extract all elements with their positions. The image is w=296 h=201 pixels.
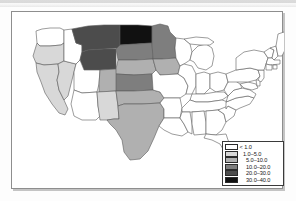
map-frame: < 1.0 1.0–5.0 5.0–10.0 10.0–20.0 20.0–30…: [11, 11, 283, 189]
state-alabama: [192, 111, 206, 135]
state-connecticut: [266, 64, 272, 70]
state-arizona: [71, 90, 100, 120]
state-wyoming: [80, 49, 116, 70]
figure-canvas: < 1.0 1.0–5.0 5.0–10.0 10.0–20.0 20.0–30…: [0, 0, 296, 201]
legend-swatch: [225, 164, 238, 170]
state-michigan: [190, 44, 214, 70]
state-north-dakota: [120, 25, 152, 45]
legend-label: 20.0–30.0: [246, 170, 270, 176]
legend-swatch: [225, 157, 238, 163]
legend-entry: 30.0–40.0: [225, 177, 281, 184]
legend-label: < 1.0: [240, 144, 252, 150]
legend-label: 5.0–10.0: [246, 157, 267, 163]
state-kansas: [116, 74, 153, 91]
state-washington: [36, 28, 64, 46]
legend-label: 1.0–5.0: [243, 151, 261, 157]
scan-artifact-line: [0, 0, 296, 3]
state-oregon: [33, 43, 64, 65]
state-minnesota: [152, 24, 176, 59]
state-nebraska: [116, 59, 156, 75]
legend-label: 10.0–20.0: [246, 164, 270, 170]
map-legend: < 1.0 1.0–5.0 5.0–10.0 10.0–20.0 20.0–30…: [222, 141, 284, 186]
legend-swatch: [225, 177, 238, 183]
state-new-york: [236, 50, 268, 70]
state-indiana: [196, 72, 210, 94]
state-pennsylvania: [226, 68, 260, 82]
state-massachusetts: [266, 58, 280, 65]
state-new-mexico: [97, 91, 119, 120]
legend-swatch: [225, 151, 238, 157]
state-maine: [276, 32, 284, 56]
legend-label: 30.0–40.0: [246, 177, 270, 183]
legend-swatch: [225, 170, 238, 176]
state-south-dakota: [116, 43, 153, 60]
state-rhode-island: [273, 65, 277, 69]
legend-swatch: [225, 144, 238, 150]
state-georgia: [206, 110, 226, 135]
